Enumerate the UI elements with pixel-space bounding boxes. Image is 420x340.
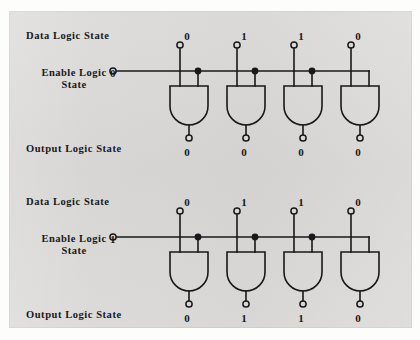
output-value-top-1: 0 (180, 146, 194, 158)
bus-junction-enable-low-2 (252, 68, 259, 75)
and-gate-enable-low-4 (341, 86, 379, 125)
output-value-top-4: 0 (351, 146, 365, 158)
output-terminal-enable-high-4 (357, 301, 363, 307)
circuit-drawing (0, 0, 420, 340)
output-terminal-enable-high-3 (300, 301, 306, 307)
and-gate-enable-low-2 (227, 86, 265, 125)
bus-junction-enable-low-3 (309, 68, 316, 75)
data-value-bottom-2: 1 (237, 196, 251, 208)
and-gate-enable-high-1 (170, 252, 208, 291)
and-gate-enable-high-4 (341, 252, 379, 291)
and-gate-enable-high-2 (227, 252, 265, 291)
output-value-bottom-1: 0 (180, 312, 194, 324)
enable-logic-label-top-line2: State (26, 79, 122, 91)
output-logic-state-label-bottom: Output Logic State (26, 309, 122, 321)
data-value-top-2: 1 (237, 30, 251, 42)
data-terminal-enable-low-1 (177, 42, 183, 48)
and-gate-enable-low-1 (170, 86, 208, 125)
data-value-top-4: 0 (351, 30, 365, 42)
data-terminal-enable-high-3 (291, 208, 297, 214)
and-gate-enable-low-3 (284, 86, 322, 125)
output-terminal-enable-low-4 (357, 135, 363, 141)
data-terminal-enable-low-3 (291, 42, 297, 48)
data-logic-state-label-bottom: Data Logic State (26, 196, 109, 208)
data-value-bottom-4: 0 (351, 196, 365, 208)
output-logic-state-label-top: Output Logic State (26, 143, 122, 155)
data-logic-state-label-top: Data Logic State (26, 30, 109, 42)
data-value-top-3: 1 (294, 30, 308, 42)
data-terminal-enable-high-4 (348, 208, 354, 214)
data-terminal-enable-high-2 (234, 208, 240, 214)
data-value-top-1: 0 (180, 30, 194, 42)
figure-page: Data Logic State Enable Logic State 0 Ou… (0, 0, 420, 340)
output-value-top-2: 0 (237, 146, 251, 158)
enable-logic-label-bottom-line1: Enable Logic (26, 233, 122, 245)
enable-value-top: 0 (110, 67, 116, 79)
output-value-top-3: 0 (294, 146, 308, 158)
data-value-bottom-1: 0 (180, 196, 194, 208)
bus-junction-enable-high-2 (252, 234, 259, 241)
output-terminal-enable-low-1 (186, 135, 192, 141)
bus-junction-enable-low-1 (195, 68, 202, 75)
data-value-bottom-3: 1 (294, 196, 308, 208)
bus-junction-enable-high-3 (309, 234, 316, 241)
and-gate-enable-high-3 (284, 252, 322, 291)
output-value-bottom-2: 1 (237, 312, 251, 324)
output-terminal-enable-low-2 (243, 135, 249, 141)
data-terminal-enable-low-2 (234, 42, 240, 48)
enable-logic-label-bottom-line2: State (26, 245, 122, 257)
enable-logic-label-top-line1: Enable Logic (26, 67, 122, 79)
output-terminal-enable-high-2 (243, 301, 249, 307)
enable-value-bottom: 1 (110, 233, 116, 245)
data-terminal-enable-low-4 (348, 42, 354, 48)
data-terminal-enable-high-1 (177, 208, 183, 214)
bus-junction-enable-high-1 (195, 234, 202, 241)
output-terminal-enable-low-3 (300, 135, 306, 141)
output-value-bottom-4: 0 (351, 312, 365, 324)
output-value-bottom-3: 1 (294, 312, 308, 324)
output-terminal-enable-high-1 (186, 301, 192, 307)
